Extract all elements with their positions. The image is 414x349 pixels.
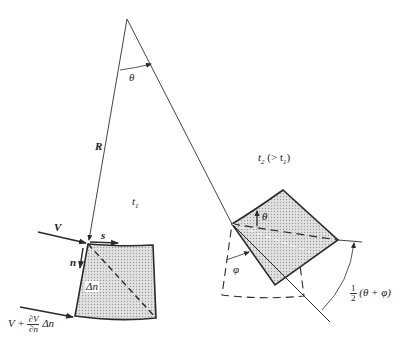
label-n: n — [70, 257, 76, 268]
label-t2: t2 (> t1) — [258, 152, 290, 166]
fluid-element-t2 — [222, 190, 362, 322]
label-phi: φ — [233, 264, 239, 275]
label-theta-top: θ — [129, 72, 134, 83]
label-radius: R — [95, 141, 102, 152]
label-s: s — [101, 230, 105, 241]
label-theta-small: θ — [262, 211, 267, 222]
label-velocity-gradient: V + ∂V∂n Δn — [8, 315, 54, 334]
label-t1: t1 — [132, 196, 139, 210]
label-half-theta-phi: 12 (θ + φ) — [350, 284, 391, 303]
label-delta-n: Δn — [85, 281, 99, 292]
label-velocity: V — [54, 222, 61, 233]
diagram-canvas: θ R t1 t2 (> t1) V s n Δn V + ∂V∂n Δn θ … — [0, 0, 414, 349]
radius-lines — [89, 19, 232, 240]
